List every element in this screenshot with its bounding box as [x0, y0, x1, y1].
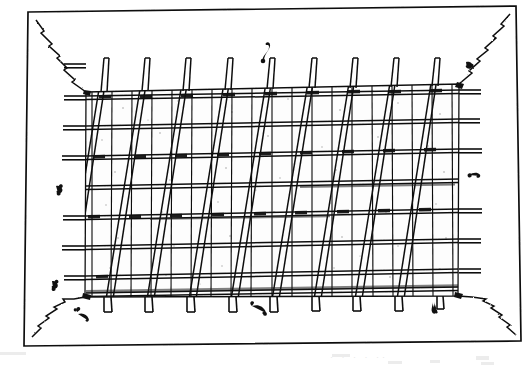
figure-root: · · · · ··	[0, 0, 529, 369]
lattice-rack-illustration	[0, 0, 529, 369]
lattice-panel	[63, 58, 459, 312]
